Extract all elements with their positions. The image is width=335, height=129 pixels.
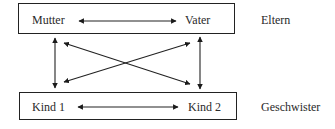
arrows-layer: [0, 0, 335, 129]
